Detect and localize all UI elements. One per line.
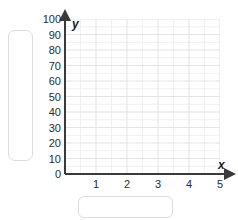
x-axis-name-label: x	[218, 159, 225, 171]
x-tick-label: 1	[86, 179, 106, 190]
x-axis-label-input[interactable]	[78, 196, 173, 218]
x-tick-label: 3	[148, 179, 168, 190]
y-axis-name-label: y	[72, 18, 79, 30]
x-tick-label: 5	[210, 179, 230, 190]
x-tick-label: 4	[179, 179, 199, 190]
x-tick-label: 2	[117, 179, 137, 190]
x-axis-tick-labels: 12345	[0, 0, 238, 220]
